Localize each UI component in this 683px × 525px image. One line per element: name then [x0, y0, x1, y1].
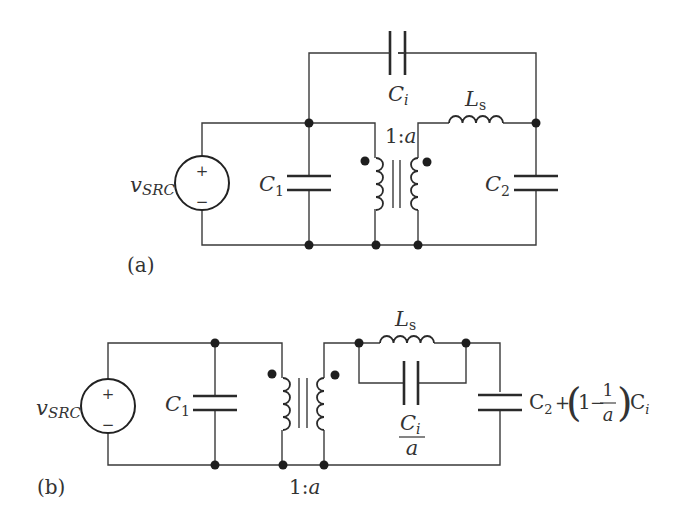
circuit-diagrams: + − vSRC C1 1:a Ls Ci C2: [0, 0, 683, 525]
transformer-ratio-a: 1:a: [385, 124, 416, 148]
inductor-ls-a: [449, 116, 503, 123]
diagram-b: + − vSRC C1 1:a Ls Ci a: [36, 307, 649, 499]
svg-text:Ci: Ci: [630, 390, 649, 417]
ls-label-b: Ls: [394, 307, 416, 333]
source-minus-a: −: [196, 193, 209, 211]
ci-over-a-numerator: Ci: [400, 411, 421, 437]
bottom-wire-b: [108, 411, 500, 465]
polarity-dot-secondary-b: [331, 371, 340, 380]
ci-over-a-branch: [359, 343, 466, 383]
voltage-source-a: + −: [175, 156, 229, 211]
c1-label-b: C1: [165, 392, 190, 419]
c2-equivalent-label: C2 + ( 1 − 1 a ) Ci: [529, 379, 649, 425]
ls-label-a: Ls: [464, 87, 486, 113]
panel-label-b: (b): [37, 475, 65, 499]
top-wire-left-b: [108, 343, 282, 379]
ci-over-a-denominator: a: [406, 436, 419, 460]
panel-label-a: (a): [127, 253, 155, 277]
inductor-ls-b: [380, 336, 434, 343]
source-minus-b: −: [102, 416, 115, 434]
polarity-dot-primary-b: [268, 370, 277, 379]
svg-text:1: 1: [578, 390, 591, 414]
bottom-wire-a: [202, 210, 536, 245]
secondary-top-wire-a: [418, 123, 536, 176]
transformer-a: [361, 157, 432, 211]
svg-text:C2: C2: [529, 390, 553, 417]
top-wire-left-a: [202, 123, 375, 158]
polarity-dot-primary-a: [361, 157, 370, 166]
voltage-source-b: + −: [81, 379, 135, 434]
c1-label-a: C1: [259, 172, 284, 199]
transformer-ratio-b: 1:a: [289, 475, 320, 499]
diagram-a: + − vSRC C1 1:a Ls Ci C2: [127, 31, 558, 277]
svg-text:a: a: [603, 404, 614, 425]
svg-text:1: 1: [603, 380, 614, 400]
c2-label-a: C2: [485, 172, 510, 199]
ci-label-a: Ci: [388, 82, 409, 108]
source-plus-b: +: [102, 385, 115, 403]
source-label-b: vSRC: [36, 396, 81, 422]
polarity-dot-secondary-a: [423, 158, 432, 167]
transformer-b: [268, 370, 340, 431]
ci-bridge-wire: [309, 53, 536, 123]
source-plus-a: +: [196, 162, 209, 180]
source-label-a: vSRC: [130, 173, 175, 199]
